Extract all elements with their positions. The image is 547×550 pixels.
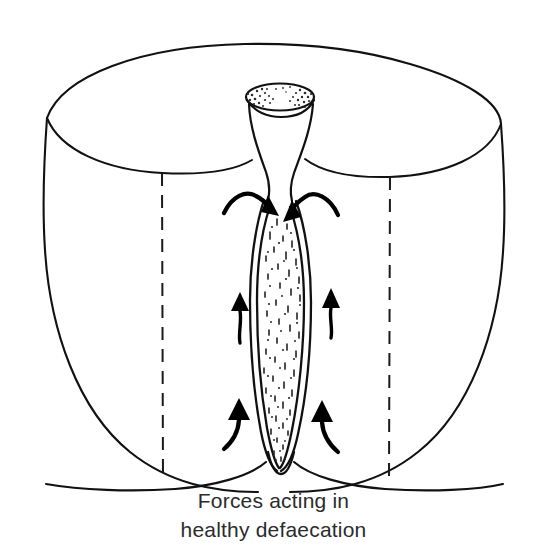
figure-caption: Forces acting in healthy defaecation bbox=[0, 486, 547, 544]
caption-line-2: healthy defaecation bbox=[0, 515, 547, 544]
anatomical-diagram bbox=[0, 0, 547, 550]
pelvic-rim-ellipse bbox=[47, 118, 501, 177]
rectal-canal bbox=[250, 200, 311, 474]
arrow-upward-right-lower bbox=[311, 400, 338, 452]
cut-plane-left bbox=[162, 173, 163, 478]
cut-plane-lines bbox=[162, 173, 390, 480]
canal-stipple-fill bbox=[264, 219, 300, 461]
cut-plane-right bbox=[389, 177, 390, 480]
arrow-upward-right-upper bbox=[322, 288, 340, 338]
caption-line-1: Forces acting in bbox=[0, 486, 547, 515]
arrow-upward-left-upper bbox=[231, 292, 249, 343]
figure-container: Forces acting in healthy defaecation bbox=[0, 0, 547, 550]
funnel-rim-stipple bbox=[247, 86, 312, 108]
arrow-upward-left-lower bbox=[224, 398, 250, 449]
arrow-inward-left bbox=[224, 194, 279, 216]
